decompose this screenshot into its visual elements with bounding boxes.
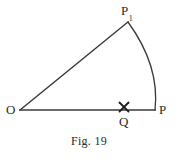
segment-op1-radius (20, 22, 128, 110)
vertex-label-p1-subscript: 1 (129, 14, 133, 23)
figure-container: P1 O P Q Fig. 19 (0, 0, 178, 160)
vertex-label-p1-base: P (121, 3, 128, 18)
vertex-label-o: O (6, 103, 15, 116)
vertex-label-p1: P1 (121, 4, 132, 21)
arc-p1-to-p (128, 22, 156, 110)
vertex-label-p: P (159, 103, 166, 116)
vertex-label-q: Q (119, 115, 128, 128)
figure-caption: Fig. 19 (0, 134, 178, 149)
